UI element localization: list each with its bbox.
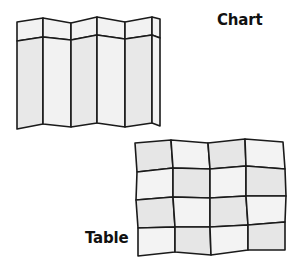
table-cell bbox=[175, 227, 211, 255]
diagram-canvas bbox=[0, 0, 297, 265]
table-cell bbox=[245, 139, 285, 169]
chart-body-panel bbox=[125, 35, 152, 127]
distorted-table-illustration bbox=[135, 139, 286, 256]
chart-label: Chart bbox=[217, 11, 262, 29]
table-cell bbox=[246, 166, 286, 196]
table-label: Table bbox=[85, 229, 128, 247]
table-cell bbox=[138, 227, 175, 256]
table-cell bbox=[210, 225, 248, 255]
table-cell bbox=[208, 139, 246, 169]
folded-chart-illustration bbox=[17, 17, 160, 129]
table-cell bbox=[135, 140, 173, 172]
table-cell bbox=[246, 196, 286, 225]
table-cell bbox=[210, 196, 248, 227]
table-cell bbox=[248, 222, 285, 250]
chart-body-panel bbox=[17, 37, 43, 129]
table-cell bbox=[173, 168, 210, 198]
table-cell bbox=[210, 166, 246, 198]
chart-body-panel bbox=[43, 37, 71, 127]
table-cell bbox=[173, 197, 210, 227]
chart-body-panel bbox=[97, 35, 125, 127]
table-cell bbox=[136, 168, 173, 200]
chart-body-panel bbox=[71, 35, 97, 127]
table-cell bbox=[136, 197, 175, 228]
chart-body-panel bbox=[152, 35, 160, 126]
table-cell bbox=[171, 140, 210, 169]
